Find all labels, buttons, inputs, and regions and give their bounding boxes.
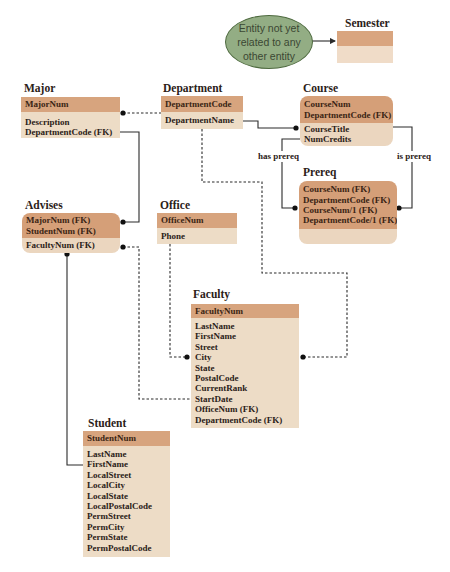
attribute: PermState [87,532,170,542]
many-dot-icon [292,205,297,210]
office-faculty-link [170,244,187,357]
advises-faculty-link [123,247,191,399]
attribute: FacultyNum (FK) [26,240,120,250]
annotation-line: other entity [243,49,295,63]
attribute: DepartmentCode (FK) [25,127,120,137]
attribute: Phone [161,231,237,241]
key-attribute: DepartmentCode/1 (FK) [303,215,397,225]
key-attribute: FacultyNum [195,306,299,316]
attribute: CurrentRank [195,383,299,393]
entity-office[interactable]: OfficeNum Phone [157,213,237,244]
is-prereq-label: is prereq [395,151,433,162]
entity-title-major: Major [24,81,55,95]
entity-title-advises: Advises [25,198,63,212]
key-attribute: CourseNum [304,99,393,109]
relationship-lines [0,0,450,572]
entity-key-section: FacultyNum [191,304,299,318]
attribute: DepartmentName [165,115,243,125]
entity-key-section: OfficeNum [157,213,237,228]
entity-faculty[interactable]: FacultyNum LastName FirstName Street Cit… [191,304,299,428]
many-dot-icon [120,244,125,249]
entity-key-section: MajorNum (FK) StudentNum (FK) [22,213,120,238]
department-course-link [243,121,296,128]
entity-student[interactable]: StudentNum LastName FirstName LocalStree… [83,431,170,557]
attribute: City [195,352,299,362]
many-dot-icon [184,354,189,359]
attribute: NumCredits [304,134,393,144]
entity-attribute-section: LastName FirstName LocalStreet LocalCity… [83,446,170,557]
key-attribute: OfficeNum [161,215,237,225]
advises-student-link [67,254,83,465]
entity-key-section: CourseNum (FK) DepartmentCode (FK) Cours… [299,181,397,229]
attribute: PermCity [87,522,170,532]
key-attribute: MajorNum [25,99,120,109]
er-diagram: Entity not yet related to any other enti… [0,0,450,572]
entity-advises[interactable]: MajorNum (FK) StudentNum (FK) FacultyNum… [22,213,120,253]
entity-title-office: Office [160,198,190,212]
annotation-ellipse: Entity not yet related to any other enti… [225,15,313,69]
entity-attribute-section [337,46,393,63]
entity-key-section [337,31,393,46]
entity-attribute-section: LastName FirstName Street City State Pos… [191,318,299,428]
annotation-line: Entity not yet [239,21,300,35]
entity-course[interactable]: CourseNum DepartmentCode (FK) CourseTitl… [300,96,393,146]
entity-title-student: Student [88,416,126,430]
key-attribute: CourseNum/1 (FK) [303,205,397,215]
entity-attribute-section: Phone [157,228,237,244]
attribute: PermPostalCode [87,543,170,553]
entity-department[interactable]: DepartmentCode DepartmentName [161,96,243,129]
entity-title-course: Course [303,81,338,95]
attribute: DepartmentCode (FK) [195,415,299,425]
many-dot-icon [120,110,125,115]
attribute: LastName [195,321,299,331]
entity-key-section: MajorNum [21,97,120,112]
annotation-line: related to any [237,35,301,49]
has-prereq-label: has prereq [256,151,301,162]
entity-attribute-section: DepartmentName [161,112,243,129]
attribute: LastName [87,449,170,459]
attribute: StartDate [195,394,299,404]
key-attribute: StudentNum (FK) [26,226,120,236]
entity-attribute-section [299,229,397,244]
entity-title-semester: Semester [345,16,390,30]
major-advises-link [120,132,139,222]
attribute: LocalState [87,491,170,501]
attribute: LocalStreet [87,470,170,480]
attribute: LocalPostalCode [87,501,170,511]
many-dot-icon [293,125,298,130]
attribute: FirstName [195,331,299,341]
key-attribute: StudentNum [87,433,170,443]
attribute: PostalCode [195,373,299,383]
key-attribute: MajorNum (FK) [26,215,120,225]
attribute: PermStreet [87,511,170,521]
entity-semester[interactable] [337,31,393,63]
attribute: OfficeNum (FK) [195,404,299,414]
attribute: State [195,363,299,373]
entity-title-faculty: Faculty [193,287,230,301]
entity-key-section: StudentNum [83,431,170,446]
course-prereq-has-link [282,139,300,208]
entity-title-department: Department [163,81,222,95]
many-dot-icon [300,354,305,359]
entity-major[interactable]: MajorNum Description DepartmentCode (FK) [21,97,120,138]
key-attribute: DepartmentCode [165,99,243,109]
entity-attribute-section: CourseTitle NumCredits [300,123,393,146]
key-attribute: DepartmentCode (FK) [304,110,393,120]
attribute: LocalCity [87,480,170,490]
entity-title-prereq: Prereq [303,165,336,179]
entity-attribute-section: Description DepartmentCode (FK) [21,112,120,138]
entity-key-section: CourseNum DepartmentCode (FK) [300,96,393,123]
key-attribute: CourseNum (FK) [303,184,397,194]
attribute: CourseTitle [304,124,393,134]
many-dot-icon [120,219,125,224]
entity-prereq[interactable]: CourseNum (FK) DepartmentCode (FK) Cours… [299,181,397,244]
many-dot-icon [396,205,401,210]
entity-attribute-section: FacultyNum (FK) [22,238,120,253]
attribute: FirstName [87,459,170,469]
entity-key-section: DepartmentCode [161,96,243,112]
attribute: Description [25,117,120,127]
key-attribute: DepartmentCode (FK) [303,195,397,205]
attribute: Street [195,342,299,352]
